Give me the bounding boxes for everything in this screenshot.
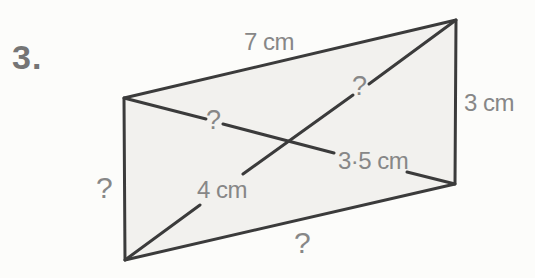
label-bottom-side: ? bbox=[294, 228, 311, 258]
label-top-side: 7 cm bbox=[244, 30, 294, 54]
label-right-side: 3 cm bbox=[464, 91, 514, 115]
label-diagonal-db-lower: 4 cm bbox=[197, 178, 247, 202]
label-diagonal-ac-upper: ? bbox=[206, 107, 221, 134]
textbook-page: 3. 7 cm 3 cm 3·5 cm 4 cm ? ? ? ? bbox=[0, 0, 535, 278]
label-diagonal-ac-lower: 3·5 cm bbox=[338, 149, 408, 173]
label-left-side: ? bbox=[96, 173, 113, 203]
label-diagonal-db-upper: ? bbox=[352, 73, 367, 100]
